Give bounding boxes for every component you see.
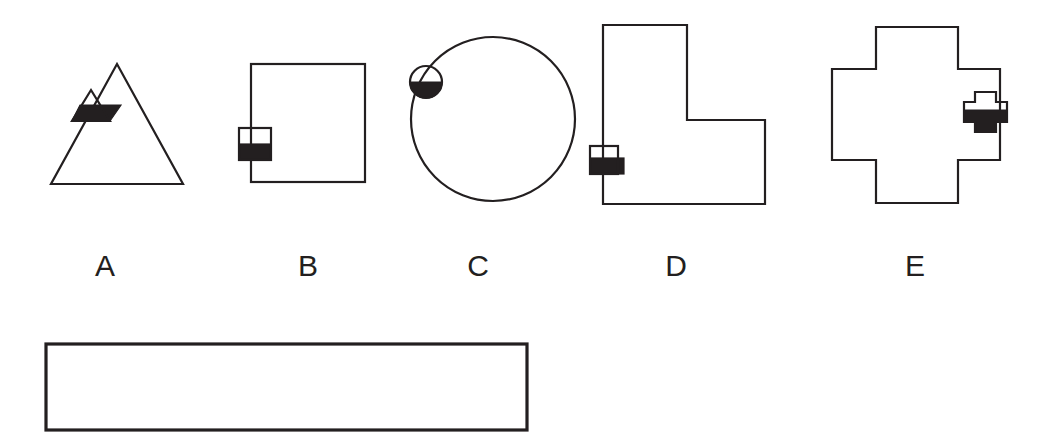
figure-label-a: A [95,249,115,282]
figure-c[interactable]: C [410,37,575,282]
triangle-shape[interactable] [51,64,183,184]
figure-b[interactable]: B [239,64,365,282]
worksheet-canvas: A B C D E [0,0,1055,446]
figure-e[interactable]: E [832,27,1007,282]
figure-d[interactable]: D [590,25,765,282]
square-shape[interactable] [251,64,365,182]
circle-shape[interactable] [411,37,575,201]
square-marker-fill [239,144,271,160]
figure-label-e: E [905,249,925,282]
figure-a[interactable]: A [51,64,183,282]
l-shape[interactable] [603,25,765,204]
figure-label-d: D [665,249,687,282]
answer-box[interactable] [46,344,527,430]
figure-label-b: B [298,249,318,282]
figure-label-c: C [467,249,489,282]
